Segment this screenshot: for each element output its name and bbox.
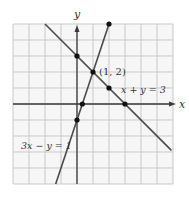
- data-point: [74, 117, 79, 122]
- data-point: [90, 69, 95, 74]
- data-point: [106, 85, 111, 90]
- graph: y x (1, 2) x + y = 3 3x − y = 1: [0, 0, 189, 198]
- line1-label: x + y = 3: [121, 84, 166, 95]
- intersection-label: (1, 2): [99, 66, 126, 77]
- x-axis-label: x: [179, 98, 186, 111]
- data-point: [80, 101, 85, 106]
- data-point: [106, 21, 111, 26]
- data-point: [122, 101, 127, 106]
- y-axis-label: y: [73, 8, 81, 21]
- line2-label: 3x − y = 1: [21, 140, 72, 151]
- data-point: [74, 53, 79, 58]
